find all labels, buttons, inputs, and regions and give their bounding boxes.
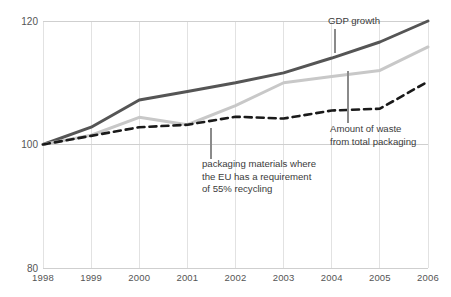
x-tick-label-2004: 2004 xyxy=(321,272,343,283)
y-tick-label-120: 120 xyxy=(21,16,38,27)
annotation-label-amount-of-waste: Amount of waste xyxy=(330,123,401,134)
x-axis-tick-labels: 199819992000200120022003200420052006 xyxy=(32,272,439,283)
annotation-label-amount-of-waste: from total packaging xyxy=(330,136,416,147)
annotation-label-gdp-growth: GDP growth xyxy=(328,15,380,26)
x-tick-label-2001: 2001 xyxy=(176,272,198,283)
line-chart: 80100120 1998199920002001200220032004200… xyxy=(0,0,451,297)
annotation-label-packaging-materials: packaging materials where xyxy=(202,158,316,169)
y-tick-label-100: 100 xyxy=(21,139,38,150)
x-tick-label-2002: 2002 xyxy=(225,272,247,283)
x-tick-label-2003: 2003 xyxy=(273,272,295,283)
x-tick-label-2000: 2000 xyxy=(128,272,150,283)
chart-container: 80100120 1998199920002001200220032004200… xyxy=(0,0,451,297)
x-tick-label-2005: 2005 xyxy=(369,272,391,283)
annotation-label-packaging-materials: of 55% recycling xyxy=(202,183,272,194)
x-tick-label-2006: 2006 xyxy=(417,272,439,283)
chart-background xyxy=(0,0,451,297)
x-tick-label-1998: 1998 xyxy=(32,272,54,283)
annotation-label-packaging-materials: the EU has a requirement xyxy=(202,171,312,182)
x-tick-label-1999: 1999 xyxy=(80,272,102,283)
